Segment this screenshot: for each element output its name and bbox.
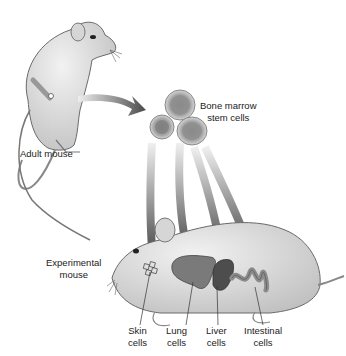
label-lung-line2: cells xyxy=(166,337,187,349)
label-stem-cells-line2: stem cells xyxy=(200,112,257,124)
adult-mouse-icon xyxy=(18,22,122,240)
label-experimental-mouse: Experimental mouse xyxy=(46,257,101,280)
label-stem-cells-line1: Bone marrow xyxy=(200,100,257,112)
label-intestinal-line2: cells xyxy=(244,337,282,349)
diagram: Adult mouse Bone marrow stem cells Exper… xyxy=(0,0,346,356)
label-skin-line1: Skin xyxy=(128,325,147,337)
label-skin-cells: Skin cells xyxy=(128,325,147,348)
label-experimental-line2: mouse xyxy=(46,269,101,281)
label-liver-cells: Liver cells xyxy=(206,325,227,348)
label-liver-line1: Liver xyxy=(206,325,227,337)
label-liver-line2: cells xyxy=(206,337,227,349)
label-skin-line2: cells xyxy=(128,337,147,349)
arrow-to-stem-cells xyxy=(78,94,146,116)
experimental-mouse-icon xyxy=(107,218,344,326)
label-lung-cells: Lung cells xyxy=(166,325,187,348)
label-experimental-line1: Experimental xyxy=(46,257,101,269)
label-adult-mouse: Adult mouse xyxy=(20,148,73,160)
label-intestinal-line1: Intestinal xyxy=(244,325,282,337)
label-lung-line1: Lung xyxy=(166,325,187,337)
diagram-illustration xyxy=(0,0,346,356)
label-stem-cells: Bone marrow stem cells xyxy=(200,100,257,123)
stem-cells-icon xyxy=(150,90,207,145)
label-intestinal-cells: Intestinal cells xyxy=(244,325,282,348)
